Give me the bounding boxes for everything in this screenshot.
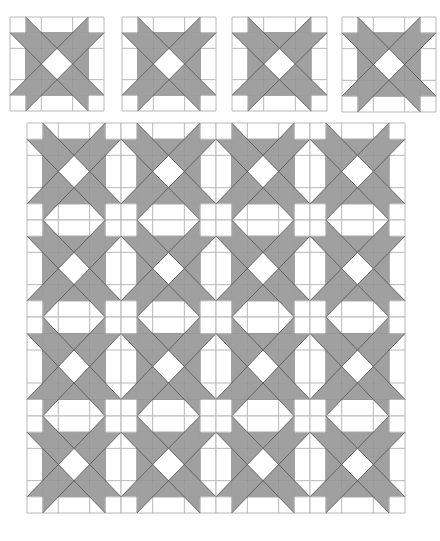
quilt-block-r2-c3 xyxy=(216,220,310,317)
quilt-block-r4-c4 xyxy=(310,416,405,513)
quilt-block-r3-c1 xyxy=(27,317,121,416)
single-block-4 xyxy=(342,17,436,112)
quilt-block-r1-c3 xyxy=(216,123,310,220)
single-blocks-row xyxy=(10,17,436,112)
quilt-block-r3-c4 xyxy=(310,317,405,416)
quilt-block-r1-c1 xyxy=(27,123,121,220)
quilt-block-r4-c1 xyxy=(27,416,121,513)
quilt-block-r2-c4 xyxy=(310,220,405,317)
quilt-block-r2-c1 xyxy=(27,220,121,317)
single-block-1 xyxy=(10,17,104,111)
quilt-block-r3-c2 xyxy=(121,317,216,416)
quilt-block-r1-c2 xyxy=(121,123,216,220)
quilt-block-r4-c2 xyxy=(121,416,216,513)
quilt-block-r3-c3 xyxy=(216,317,310,416)
quilt-block-r4-c3 xyxy=(216,416,310,513)
single-block-3 xyxy=(232,17,327,111)
quilt-block-r2-c2 xyxy=(121,220,216,317)
quilt-layout xyxy=(27,123,405,513)
quilt-diagram xyxy=(0,0,440,541)
quilt-block-r1-c4 xyxy=(310,123,405,220)
single-block-2 xyxy=(122,17,216,111)
